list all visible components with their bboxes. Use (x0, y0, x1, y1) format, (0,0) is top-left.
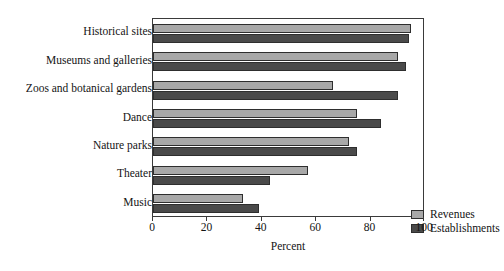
clipped-text-remnant: · · · · (0, 0, 456, 4)
bar-establishments-historical-sites (153, 34, 409, 43)
y-axis-label-nature-parks: Nature parks (93, 140, 152, 152)
bar-fill (153, 137, 349, 146)
bar-revenues-museums-and-galleries (153, 52, 398, 61)
bar-fill (153, 109, 357, 118)
x-tick-label-0: 0 (149, 221, 155, 234)
bar-revenues-nature-parks (153, 137, 349, 146)
x-axis-title: Percent (152, 240, 424, 253)
bar-revenues-music (153, 194, 243, 203)
bar-fill (153, 62, 406, 71)
bar-establishments-theater (153, 176, 270, 185)
bar-revenues-dance (153, 109, 357, 118)
bar-fill (153, 176, 270, 185)
plot-area: RevenuesEstablishments (152, 18, 424, 217)
y-axis-label-theater: Theater (117, 168, 152, 180)
bar-fill (153, 24, 411, 33)
bar-fill (153, 204, 259, 213)
bar-fill (153, 166, 308, 175)
bar-fill (153, 81, 333, 90)
bar-fill (153, 194, 243, 203)
bar-revenues-theater (153, 166, 308, 175)
bar-establishments-music (153, 204, 259, 213)
x-axis-tick-labels: 020406080100 (152, 221, 424, 235)
bar-establishments-nature-parks (153, 147, 357, 156)
legend-label: Revenues (430, 209, 475, 221)
bar-establishments-museums-and-galleries (153, 62, 406, 71)
bar-establishments-dance (153, 119, 381, 128)
x-tick-label-80: 80 (364, 221, 376, 234)
bar-fill (153, 52, 398, 61)
bar-fill (153, 147, 357, 156)
bar-establishments-zoos-and-botanical-gardens (153, 91, 398, 100)
clipped-text-remnant-glyphs: · · · · (28, 0, 65, 3)
y-axis-label-historical-sites: Historical sites (83, 26, 152, 38)
bar-revenues-zoos-and-botanical-gardens (153, 81, 333, 90)
x-tick-label-40: 40 (255, 221, 267, 234)
y-axis-label-dance: Dance (123, 112, 152, 124)
legend-entry-revenues: Revenues (411, 209, 500, 220)
x-tick-label-60: 60 (309, 221, 321, 234)
bar-revenues-historical-sites (153, 24, 411, 33)
legend-label: Establishments (430, 223, 500, 235)
bar-fill (153, 34, 409, 43)
x-tick-label-20: 20 (201, 221, 213, 234)
y-axis-label-museums-and-galleries: Museums and galleries (46, 55, 152, 67)
y-axis-label-zoos-and-botanical-gardens: Zoos and botanical gardens (26, 83, 152, 95)
bar-fill (153, 91, 398, 100)
y-axis-label-music: Music (123, 197, 152, 209)
bar-fill (153, 119, 381, 128)
x-tick-label-100: 100 (415, 221, 432, 234)
